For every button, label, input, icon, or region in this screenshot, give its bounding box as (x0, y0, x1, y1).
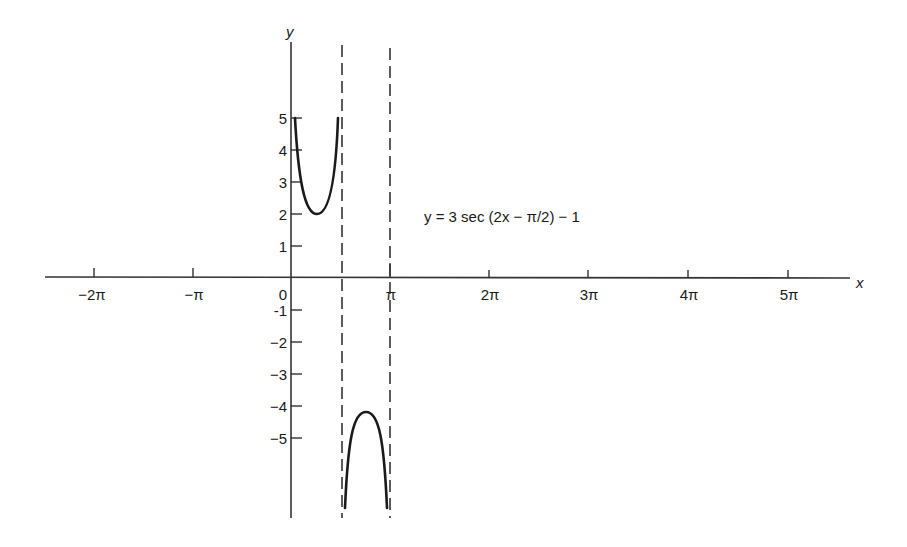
x-tick-label: 0 (279, 286, 287, 303)
x-tick-label: −π (184, 286, 203, 303)
y-tick-labels: 5 4 3 2 1 -1 −2 −3 −4 −5 (270, 110, 287, 447)
x-tick-label: 3π (580, 286, 599, 303)
x-tick-label: π (386, 286, 396, 303)
y-tick-label: −4 (270, 398, 287, 415)
function-equation-label: y = 3 sec (2x − π/2) − 1 (424, 208, 580, 225)
y-axis-label: y (285, 23, 295, 40)
lower-branch-curve (345, 412, 387, 508)
x-axis (45, 277, 850, 278)
y-tick-label: -1 (274, 302, 287, 319)
y-tick-label: 5 (279, 110, 287, 127)
x-tick-label: −2π (78, 286, 105, 303)
y-tick-label: −5 (270, 430, 287, 447)
x-tick-labels: −2π −π 0 π 2π 3π 4π 5π (78, 286, 798, 303)
x-ticks (94, 263, 788, 278)
y-tick-label: −2 (270, 334, 287, 351)
secant-function-plot: x y −2π −π 0 π 2π 3π 4π 5π 5 (0, 0, 907, 547)
x-tick-label: 5π (780, 286, 799, 303)
y-tick-label: −3 (270, 366, 287, 383)
upper-branch-curve (295, 118, 338, 214)
x-tick-label: 2π (481, 286, 500, 303)
y-tick-label: 3 (279, 174, 287, 191)
x-axis-label: x (855, 274, 864, 291)
y-tick-label: 2 (279, 206, 287, 223)
y-tick-label: 4 (279, 142, 287, 159)
y-tick-label: 1 (279, 238, 287, 255)
x-tick-label: 4π (680, 286, 699, 303)
